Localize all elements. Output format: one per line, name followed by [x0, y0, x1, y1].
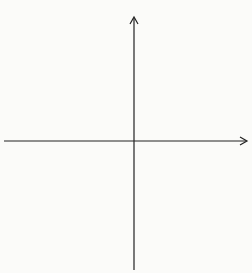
coordinate-plane [0, 0, 252, 273]
